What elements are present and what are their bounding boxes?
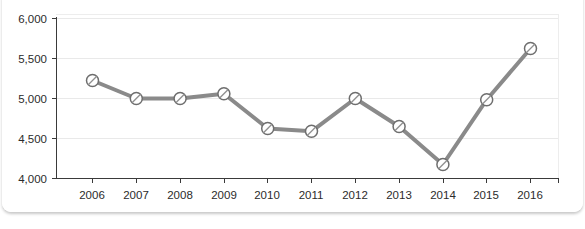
x-tick-label-2010: 2010 (254, 189, 280, 201)
data-point-2016[interactable] (525, 43, 537, 55)
data-point-2010[interactable] (262, 123, 274, 135)
chart-svg: 6,000 5,500 5,000 4,500 4,000 (0, 0, 585, 229)
x-tick-label-2007: 2007 (123, 189, 149, 201)
y-tick-label-6000: 6,000 (18, 13, 47, 25)
series-group (87, 43, 537, 171)
data-point-2006[interactable] (87, 75, 99, 87)
y-axis (52, 17, 57, 179)
y-tick-label-5000: 5,000 (18, 93, 47, 105)
gridlines (56, 19, 559, 139)
x-tick-label-2008: 2008 (167, 189, 193, 201)
x-axis (56, 179, 559, 184)
x-tick-label-2015: 2015 (473, 189, 499, 201)
data-point-2012[interactable] (349, 93, 361, 105)
chart-screenshot: 6,000 5,500 5,000 4,500 4,000 (0, 0, 585, 229)
x-tick-label-2011: 2011 (299, 189, 324, 201)
y-tick-label-4000: 4,000 (18, 173, 47, 185)
x-tick-label-2014: 2014 (430, 189, 456, 201)
series-markers (87, 43, 537, 171)
x-tick-label-2016: 2016 (517, 189, 543, 201)
data-point-2007[interactable] (130, 93, 142, 105)
data-point-2015[interactable] (481, 94, 493, 106)
y-axis-tick-labels: 6,000 5,500 5,000 4,500 4,000 (18, 13, 47, 185)
y-tick-label-5500: 5,500 (18, 53, 47, 65)
series-polyline (93, 49, 531, 165)
x-tick-label-2009: 2009 (211, 189, 237, 201)
data-point-2014[interactable] (437, 159, 449, 171)
data-point-2008[interactable] (174, 93, 186, 105)
x-tick-label-2012: 2012 (342, 189, 368, 201)
data-point-2013[interactable] (393, 121, 405, 133)
x-axis-tick-labels: 2006 2007 2008 2009 2010 2011 2012 2013 … (79, 189, 543, 201)
data-point-2011[interactable] (306, 125, 318, 137)
y-tick-label-4500: 4,500 (18, 133, 47, 145)
data-point-2009[interactable] (218, 88, 230, 100)
line-chart: 6,000 5,500 5,000 4,500 4,000 (0, 0, 585, 229)
x-tick-label-2013: 2013 (386, 189, 412, 201)
x-tick-label-2006: 2006 (79, 189, 105, 201)
